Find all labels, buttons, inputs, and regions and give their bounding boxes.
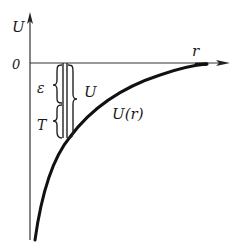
- epsilon-label: ε: [37, 80, 45, 96]
- potential-energy-diagram: U 0 r ε T U U(r): [0, 0, 240, 251]
- epsilon-brace: [53, 65, 62, 103]
- curve-tail: [195, 64, 207, 65]
- potential-label: U: [84, 83, 98, 101]
- potential-brace: [68, 65, 77, 138]
- y-axis-label: U: [12, 18, 26, 36]
- x-axis-label: r: [192, 42, 200, 60]
- origin-label: 0: [12, 57, 20, 72]
- curve-label: U(r): [112, 105, 144, 123]
- y-axis: [27, 12, 33, 240]
- kinetic-label: T: [37, 117, 48, 133]
- potential-curve: [35, 64, 207, 240]
- kinetic-brace: [53, 105, 62, 138]
